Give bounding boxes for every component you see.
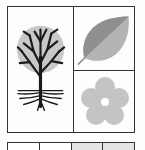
leaf-icon <box>74 7 134 70</box>
bottom-cell-2 <box>40 143 72 150</box>
bottom-cell-row <box>7 142 135 150</box>
flower-panel <box>74 71 134 132</box>
picture-grid-frame <box>7 6 135 133</box>
tree-panel <box>8 7 74 132</box>
tree-with-roots-icon <box>8 7 73 132</box>
bottom-cell-4 <box>103 143 134 150</box>
leaf-panel <box>74 7 134 71</box>
diagram-canvas <box>0 0 145 150</box>
flower-icon <box>74 71 134 132</box>
bottom-cell-3 <box>72 143 104 150</box>
bottom-cell-1 <box>8 143 40 150</box>
